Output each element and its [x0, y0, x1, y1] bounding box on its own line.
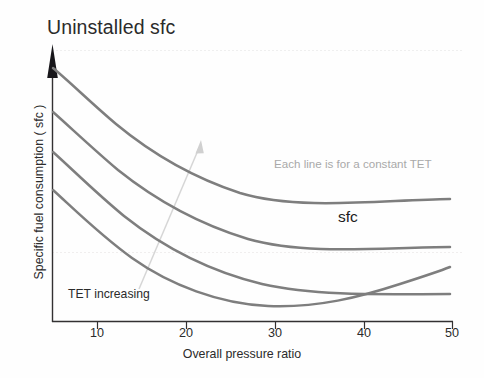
x-tick-label-20: 20 — [166, 326, 206, 340]
x-axis-label: Overall pressure ratio — [0, 347, 484, 361]
y-axis — [47, 44, 58, 322]
annotation-constant-tet: Each line is for a constant TET — [274, 157, 432, 170]
x-tick-label-10: 10 — [77, 326, 117, 340]
tet-curve-2 — [53, 112, 450, 249]
tet-curves — [53, 68, 450, 306]
x-tick-label-30: 30 — [255, 326, 295, 340]
annotation-sfc: sfc — [338, 208, 358, 226]
annotation-tet-increasing: TET increasing — [68, 287, 150, 301]
page-title: Uninstalled sfc — [47, 16, 175, 39]
x-tick-label-40: 40 — [344, 326, 384, 340]
chart-canvas — [0, 0, 484, 378]
gridlines — [52, 51, 462, 253]
tet-curve-1 — [53, 68, 450, 203]
tet-curve-3 — [53, 152, 450, 294]
chart-figure: Uninstalled sfc Specific fuel consumptio… — [0, 0, 484, 378]
y-axis-label: Specific fuel consumption ( sfc ) — [32, 67, 46, 317]
x-tick-label-50: 50 — [432, 326, 472, 340]
